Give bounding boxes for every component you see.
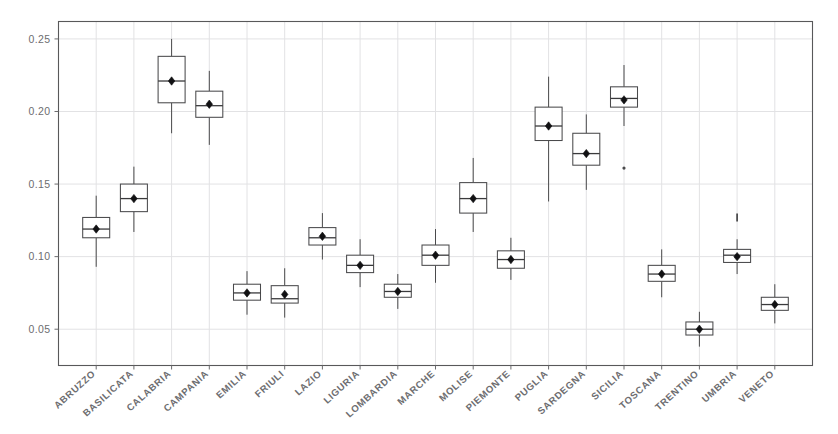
boxplot-group[interactable] — [761, 284, 788, 323]
boxplot-group[interactable] — [347, 239, 374, 287]
y-axis-tick-label: 0.20 — [28, 105, 50, 117]
boxplot-group[interactable] — [422, 229, 449, 283]
boxplot-group[interactable] — [535, 77, 562, 202]
y-axis-tick-label: 0.25 — [28, 33, 50, 45]
chart-canvas: 0.050.100.150.200.25ABRUZZOBASILICATACAL… — [0, 0, 838, 434]
x-axis-tick-label: MARCHE — [395, 368, 437, 407]
boxplot-group[interactable] — [309, 213, 336, 259]
x-axis-tick-label: LAZIO — [292, 368, 323, 398]
x-axis-tick-label: EMILIA — [214, 368, 249, 401]
boxplot-group[interactable] — [384, 274, 411, 309]
boxplot-group[interactable] — [497, 238, 524, 280]
boxplot-group[interactable] — [271, 268, 298, 317]
y-axis-tick-label: 0.10 — [28, 250, 50, 262]
y-axis-tick-label: 0.05 — [28, 323, 50, 335]
boxplot-figure: 0.050.100.150.200.25ABRUZZOBASILICATACAL… — [0, 0, 838, 434]
boxplot-group[interactable] — [573, 114, 600, 189]
y-axis-tick-label: 0.15 — [28, 178, 50, 190]
boxplot-group[interactable] — [120, 167, 147, 232]
boxplot-group[interactable] — [83, 196, 110, 267]
boxplot-group[interactable] — [460, 158, 487, 232]
x-axis-tick-label: MOLISE — [437, 368, 475, 404]
x-axis-tick-label: VENETO — [736, 368, 776, 405]
boxplot-group[interactable] — [686, 312, 713, 347]
boxplot-group[interactable] — [234, 271, 261, 315]
boxplot-group[interactable] — [158, 39, 185, 133]
x-axis-tick-label: SICILIA — [589, 368, 625, 402]
boxplot-group[interactable] — [196, 71, 223, 145]
x-axis-tick-label: FRIULI — [253, 368, 286, 400]
outlier-mark — [622, 166, 625, 169]
x-axis-tick-label: PUGLIA — [513, 368, 550, 403]
x-axis-tick-label: UMBRIA — [699, 368, 738, 405]
